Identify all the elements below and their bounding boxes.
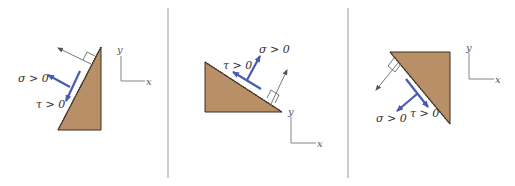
axis-y-label-2: y bbox=[287, 106, 294, 117]
axis-x-label-3: x bbox=[495, 74, 501, 85]
normal-arrow-1 bbox=[58, 48, 91, 64]
normal-arrow-3 bbox=[376, 63, 398, 90]
stress-sign-convention-diagram: σ > 0 τ > 0 y x τ > 0 σ > 0 y x bbox=[0, 0, 515, 186]
axis-x-label-2: x bbox=[317, 138, 323, 149]
axes-3: y x bbox=[465, 42, 501, 85]
right-angle-mark-2 bbox=[267, 90, 279, 103]
axis-x-label-1: x bbox=[146, 76, 152, 87]
panel-3: σ > 0 τ > 0 y x bbox=[376, 42, 501, 125]
axes-2: y x bbox=[287, 106, 323, 149]
normal-arrow-2 bbox=[271, 70, 287, 104]
sigma-label-2: σ > 0 bbox=[259, 43, 290, 56]
right-angle-mark-1 bbox=[83, 52, 95, 60]
tau-label-1: τ > 0 bbox=[36, 98, 65, 111]
sigma-label-1: σ > 0 bbox=[18, 72, 49, 85]
tau-label-3: τ > 0 bbox=[410, 107, 439, 120]
axis-y-label-3: y bbox=[465, 42, 472, 53]
sigma-label-3: σ > 0 bbox=[376, 112, 407, 125]
panel-1: σ > 0 τ > 0 y x bbox=[18, 44, 152, 130]
tau-label-2: τ > 0 bbox=[223, 59, 252, 72]
sigma-arrow-1 bbox=[48, 75, 70, 87]
axes-1: y x bbox=[116, 44, 152, 87]
panel-2: τ > 0 σ > 0 y x bbox=[205, 43, 323, 149]
axis-y-label-1: y bbox=[116, 44, 123, 55]
